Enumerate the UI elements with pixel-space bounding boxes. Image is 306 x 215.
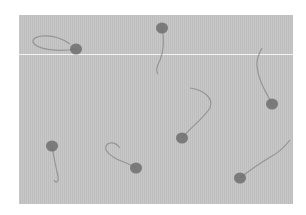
tail: [240, 140, 290, 178]
sperm-cell: [156, 23, 168, 75]
sperm-cell: [234, 140, 290, 184]
head: [176, 133, 188, 144]
sperm-cell: [46, 141, 58, 183]
head: [266, 99, 278, 110]
head: [130, 163, 142, 174]
head: [234, 173, 246, 184]
sperm-cell: [176, 88, 211, 144]
tail: [257, 48, 272, 104]
tail: [106, 143, 136, 168]
sperm-cells: [0, 0, 306, 215]
sperm-cell: [257, 48, 278, 110]
tail: [182, 88, 211, 138]
head: [156, 23, 168, 34]
head: [70, 44, 82, 55]
sperm-cell: [106, 143, 142, 174]
tail: [33, 36, 76, 50]
tail: [157, 28, 164, 74]
sperm-cell: [33, 36, 82, 55]
head: [46, 141, 58, 152]
